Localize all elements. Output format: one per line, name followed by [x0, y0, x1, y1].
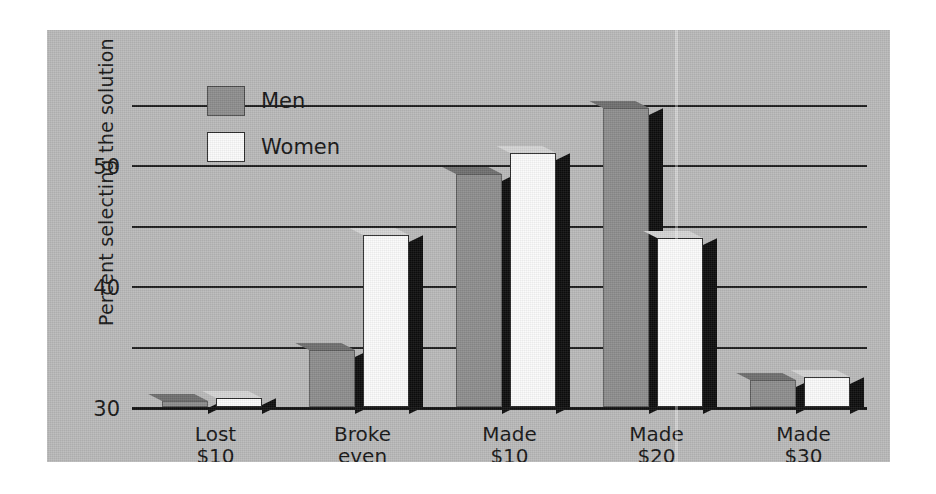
y-tick-label-50: 50 — [93, 155, 120, 179]
bar-women-lost-10 — [216, 398, 262, 407]
legend-label-men: Men — [261, 89, 305, 113]
bar-top-face — [202, 391, 262, 398]
bar-top-face — [148, 394, 208, 401]
bar-men-broke-even — [309, 350, 355, 407]
bar-top-face — [736, 373, 796, 380]
x-category-label-lost-10: Lost $10 — [195, 423, 236, 462]
bar-side-shadow — [703, 238, 717, 414]
bar-front-face — [216, 398, 262, 407]
bar-top-face — [442, 167, 502, 174]
bar-side-shadow — [409, 235, 423, 414]
bar-front-face — [750, 380, 796, 407]
bar-women-broke-even — [363, 235, 409, 407]
bar-top-face — [349, 228, 409, 235]
bar-front-face — [510, 153, 556, 407]
bar-front-face — [603, 108, 649, 407]
bar-women-made-30 — [804, 377, 850, 407]
legend-swatch-men-icon — [207, 86, 245, 116]
bar-front-face — [456, 174, 502, 407]
x-category-label-made-30: Made $30 — [776, 423, 831, 462]
bar-men-made-30 — [750, 380, 796, 407]
bar-men-made-20 — [603, 108, 649, 407]
chart-legend: Men Women — [207, 78, 340, 170]
scan-seam-artifact — [675, 30, 678, 462]
legend-swatch-women-icon — [207, 132, 245, 162]
legend-item-women: Women — [207, 124, 340, 170]
x-category-label-made-10: Made $10 — [482, 423, 537, 462]
bar-men-made-10 — [456, 174, 502, 407]
x-category-label-broke-even: Broke even — [334, 423, 391, 462]
bar-women-made-10 — [510, 153, 556, 407]
bar-front-face — [657, 238, 703, 407]
bar-side-shadow — [556, 153, 570, 414]
chart-figure: Percent selecting the solution 010203040… — [0, 0, 936, 494]
bar-women-made-20 — [657, 238, 703, 407]
y-tick-label-40: 40 — [93, 276, 120, 300]
y-tick-label-30: 30 — [93, 397, 120, 421]
chart-panel: Percent selecting the solution 010203040… — [47, 30, 890, 462]
bar-top-face — [496, 146, 556, 153]
x-axis-baseline: 0 — [132, 407, 867, 410]
bar-front-face — [309, 350, 355, 407]
legend-label-women: Women — [261, 135, 340, 159]
bar-front-face — [804, 377, 850, 407]
legend-item-men: Men — [207, 78, 340, 124]
bar-front-face — [363, 235, 409, 407]
bar-top-face — [790, 370, 850, 377]
